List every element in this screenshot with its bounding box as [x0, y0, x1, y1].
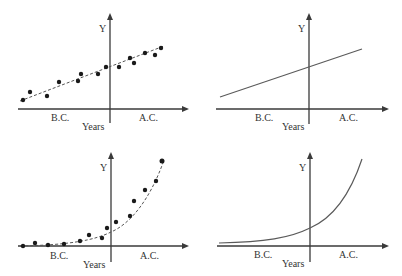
ac-label: A.C.	[339, 249, 358, 260]
exponential-growth-curve	[219, 159, 362, 243]
chart-bottom-right: Y B.C. Years A.C.	[217, 152, 389, 269]
y-axis-label: Y	[100, 162, 107, 173]
diagram-canvas: Y B.C. Years A.C. Y B.C. Years A.C.	[0, 0, 402, 276]
x-axis-label: Years	[282, 121, 304, 132]
bc-label: B.C.	[51, 112, 69, 123]
x-axis-arrow-icon	[382, 106, 389, 112]
linear-trend-line	[20, 46, 164, 101]
y-axis-label: Y	[299, 162, 306, 173]
ac-label: A.C.	[139, 112, 158, 123]
x-axis-label: Years	[82, 121, 104, 132]
y-axis-arrow-icon	[107, 13, 113, 20]
linear-growth-line	[220, 49, 362, 97]
chart-top-right: Y B.C. Years A.C.	[216, 13, 389, 132]
x-axis-label: Years	[282, 258, 304, 269]
x-axis-arrow-icon	[182, 243, 189, 249]
bc-label: B.C.	[50, 250, 68, 261]
ac-label: A.C.	[140, 250, 159, 261]
ac-label: A.C.	[339, 112, 358, 123]
y-axis-arrow-icon	[307, 152, 313, 159]
y-axis-arrow-icon	[108, 152, 114, 159]
x-axis-label: Years	[83, 259, 105, 270]
exponential-trend-curve	[20, 160, 164, 246]
x-axis-arrow-icon	[382, 243, 389, 249]
bc-label: B.C.	[254, 249, 272, 260]
y-axis-label: Y	[99, 23, 106, 34]
bc-label: B.C.	[255, 112, 273, 123]
chart-bottom-left: Y B.C. Years A.C.	[18, 152, 189, 270]
x-axis-arrow-icon	[182, 106, 189, 112]
chart-top-left: Y B.C. Years A.C.	[18, 13, 189, 132]
y-axis-arrow-icon	[306, 13, 312, 20]
y-axis-label: Y	[298, 23, 305, 34]
